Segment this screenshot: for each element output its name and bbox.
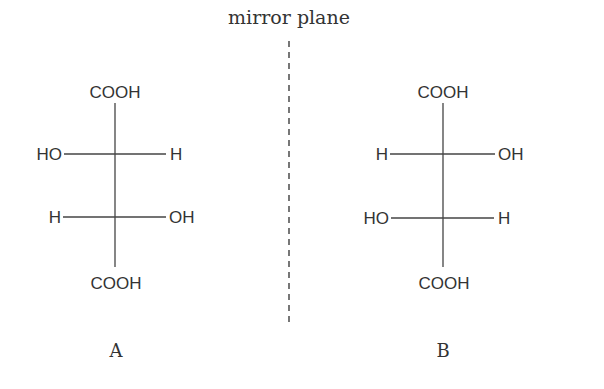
mirror-plane-label: mirror plane [228,6,350,28]
molecule-a-label: A [109,340,124,361]
molecule-a-lower-right-group: OH [169,208,195,227]
molecule-a-upper-left-group: HO [37,145,63,164]
molecule-a-upper-right-group: H [170,145,182,164]
molecule-b: COOH H OH HO H COOH B [364,83,524,361]
molecule-a-top-group: COOH [90,83,141,102]
molecule-b-bottom-group: COOH [419,274,470,293]
molecule-b-upper-left-group: H [376,145,388,164]
molecule-b-top-group: COOH [418,83,469,102]
molecule-a: COOH HO H H OH COOH A [37,83,195,361]
molecule-b-lower-left-group: HO [364,209,390,228]
molecule-a-lower-left-group: H [49,208,61,227]
molecule-b-upper-right-group: OH [498,145,524,164]
molecule-b-label: B [436,340,449,361]
molecule-b-lower-right-group: H [498,209,510,228]
molecule-a-bottom-group: COOH [91,274,142,293]
fischer-projection-diagram: mirror plane COOH HO H H OH COOH A COOH … [0,0,604,389]
